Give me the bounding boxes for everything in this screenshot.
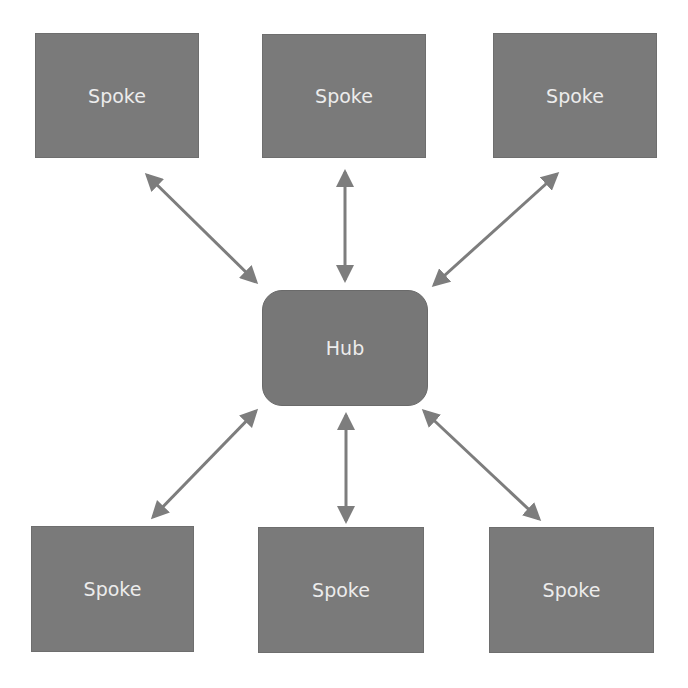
spoke-bottom-left: Spoke [31,526,194,652]
arrow-bottom-left [153,411,256,517]
spoke-bottom-right: Spoke [489,527,654,653]
arrow-bottom-right [424,411,539,519]
spoke-top-center: Spoke [262,34,426,158]
spoke-label: Spoke [315,85,373,107]
spoke-top-right: Spoke [493,33,657,158]
spoke-label: Spoke [546,85,604,107]
arrow-top-left [147,175,256,282]
hub-label: Hub [326,337,364,359]
hub-node: Hub [262,290,428,406]
spoke-bottom-center: Spoke [258,527,424,653]
spoke-label: Spoke [312,579,370,601]
spoke-label: Spoke [543,579,601,601]
arrow-top-right [434,174,557,285]
spoke-top-left: Spoke [35,33,199,158]
spoke-label: Spoke [88,85,146,107]
spoke-label: Spoke [84,578,142,600]
